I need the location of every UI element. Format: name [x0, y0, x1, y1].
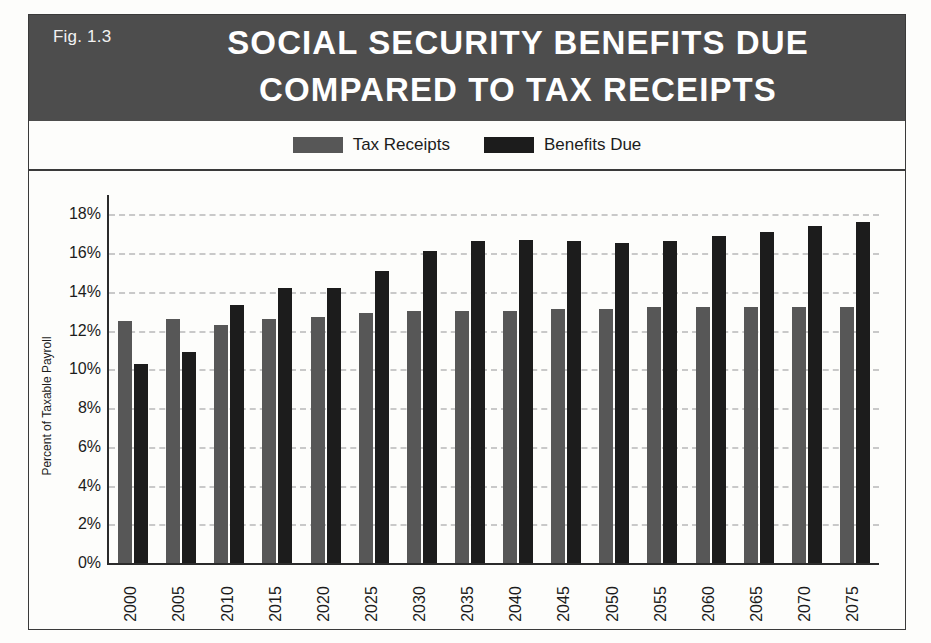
x-axis-tick: 2065: [748, 586, 766, 622]
bar-group: [542, 195, 590, 563]
bar-benefits-due[interactable]: [519, 240, 533, 563]
y-axis-tick-labels: 0%2%4%6%8%10%12%14%16%18%: [51, 195, 101, 563]
x-axis-tick: 2015: [266, 586, 284, 622]
bar-benefits-due[interactable]: [230, 305, 244, 563]
x-axis-tick: 2045: [555, 586, 573, 622]
legend-swatch-icon: [484, 137, 534, 153]
x-axis-tick: 2000: [122, 586, 140, 622]
bar-group: [687, 195, 735, 563]
figure-container: Fig. 1.3 SOCIAL SECURITY BENEFITS DUE CO…: [28, 14, 906, 630]
chart-legend: Tax ReceiptsBenefits Due: [29, 121, 905, 171]
bar-tax-receipts[interactable]: [840, 307, 854, 563]
bar-tax-receipts[interactable]: [166, 319, 180, 563]
bar-group: [350, 195, 398, 563]
bar-benefits-due[interactable]: [760, 232, 774, 563]
bar-tax-receipts[interactable]: [551, 309, 565, 563]
bar-group: [109, 195, 157, 563]
x-axis-tick: 2050: [603, 586, 621, 622]
x-axis-tick-cell: 2075: [829, 571, 877, 643]
bar-benefits-due[interactable]: [808, 226, 822, 563]
bar-tax-receipts[interactable]: [744, 307, 758, 563]
x-axis-tick-cell: 2030: [396, 571, 444, 643]
chart-title: SOCIAL SECURITY BENEFITS DUE COMPARED TO…: [139, 19, 897, 113]
bar-tax-receipts[interactable]: [262, 319, 276, 563]
bar-tax-receipts[interactable]: [599, 309, 613, 563]
chart-title-line-2: COMPARED TO TAX RECEIPTS: [139, 66, 897, 113]
bar-tax-receipts[interactable]: [455, 311, 469, 563]
y-axis-tick: 8%: [78, 399, 101, 417]
x-axis-tick-cell: 2035: [444, 571, 492, 643]
x-axis-tick-cell: 2000: [107, 571, 155, 643]
x-axis-tick: 2020: [315, 586, 333, 622]
bar-tax-receipts[interactable]: [311, 317, 325, 563]
bar-group: [398, 195, 446, 563]
chart-title-line-1: SOCIAL SECURITY BENEFITS DUE: [139, 19, 897, 66]
x-axis-tick: 2070: [796, 586, 814, 622]
bar-tax-receipts[interactable]: [359, 313, 373, 563]
x-axis-tick: 2040: [507, 586, 525, 622]
y-axis-tick: 12%: [69, 322, 101, 340]
figure-header-banner: Fig. 1.3 SOCIAL SECURITY BENEFITS DUE CO…: [29, 15, 905, 121]
x-axis-tick: 2005: [170, 586, 188, 622]
bar-benefits-due[interactable]: [375, 271, 389, 563]
x-axis-tick: 2035: [459, 586, 477, 622]
x-axis-tick: 2055: [651, 586, 669, 622]
bar-tax-receipts[interactable]: [696, 307, 710, 563]
bar-group: [446, 195, 494, 563]
bar-tax-receipts[interactable]: [118, 321, 132, 563]
bar-group: [590, 195, 638, 563]
bar-group: [302, 195, 350, 563]
bar-benefits-due[interactable]: [327, 288, 341, 563]
legend-swatch-icon: [293, 137, 343, 153]
bar-tax-receipts[interactable]: [407, 311, 421, 563]
x-axis-tick-cell: 2020: [300, 571, 348, 643]
bar-group: [831, 195, 879, 563]
x-axis-tick: 2075: [844, 586, 862, 622]
bar-benefits-due[interactable]: [856, 222, 870, 563]
legend-item-label: Benefits Due: [544, 135, 641, 155]
bar-group: [157, 195, 205, 563]
y-axis-tick: 10%: [69, 360, 101, 378]
y-axis-tick: 6%: [78, 438, 101, 456]
x-axis-tick-labels: 2000200520102015202020252030203520402045…: [107, 571, 877, 643]
bar-benefits-due[interactable]: [134, 364, 148, 563]
y-axis-tick: 18%: [69, 205, 101, 223]
figure-number: Fig. 1.3: [53, 27, 111, 47]
legend-item[interactable]: Tax Receipts: [293, 135, 450, 155]
bar-benefits-due[interactable]: [567, 241, 581, 563]
x-axis-tick: 2030: [411, 586, 429, 622]
legend-item[interactable]: Benefits Due: [484, 135, 641, 155]
bar-benefits-due[interactable]: [663, 241, 677, 563]
bar-tax-receipts[interactable]: [214, 325, 228, 563]
x-axis-tick-cell: 2025: [348, 571, 396, 643]
bar-benefits-due[interactable]: [615, 243, 629, 563]
x-axis-tick-cell: 2005: [155, 571, 203, 643]
bar-group: [735, 195, 783, 563]
bar-benefits-due[interactable]: [423, 251, 437, 563]
bar-benefits-due[interactable]: [182, 352, 196, 563]
x-axis-tick-cell: 2040: [492, 571, 540, 643]
x-axis-tick-cell: 2010: [203, 571, 251, 643]
legend-item-label: Tax Receipts: [353, 135, 450, 155]
y-axis-tick: 0%: [78, 554, 101, 572]
x-axis-tick-cell: 2055: [636, 571, 684, 643]
plot-area: [107, 195, 879, 565]
bar-tax-receipts[interactable]: [503, 311, 517, 563]
x-axis-tick-cell: 2050: [588, 571, 636, 643]
bar-benefits-due[interactable]: [278, 288, 292, 563]
bar-tax-receipts[interactable]: [792, 307, 806, 563]
x-axis-tick: 2025: [363, 586, 381, 622]
x-axis-tick-cell: 2015: [251, 571, 299, 643]
bar-group: [494, 195, 542, 563]
x-axis-tick-cell: 2060: [685, 571, 733, 643]
x-axis-tick: 2060: [700, 586, 718, 622]
y-axis-tick: 2%: [78, 515, 101, 533]
bar-benefits-due[interactable]: [471, 241, 485, 563]
bar-benefits-due[interactable]: [712, 236, 726, 563]
bar-groups: [109, 195, 879, 563]
y-axis-tick: 4%: [78, 477, 101, 495]
bar-tax-receipts[interactable]: [647, 307, 661, 563]
y-axis-tick: 16%: [69, 244, 101, 262]
bar-group: [783, 195, 831, 563]
plot-outer: Percent of Taxable Payroll 0%2%4%6%8%10%…: [29, 171, 905, 629]
